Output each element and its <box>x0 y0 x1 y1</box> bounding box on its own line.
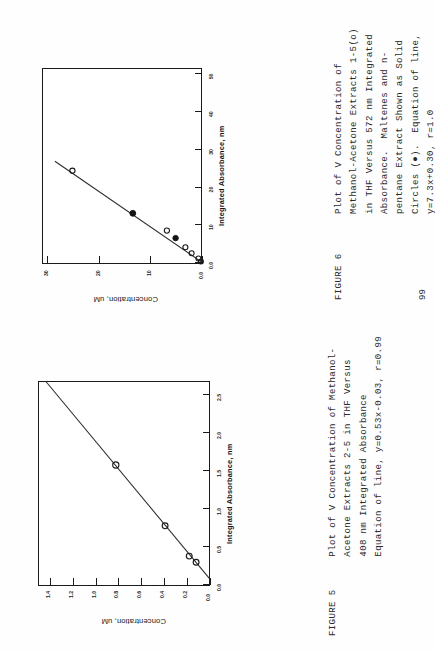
figure-5-xticklabel: 1.0 <box>216 508 222 515</box>
figure-6-xticklabel: 40 <box>208 111 214 117</box>
figure-5-plot-frame <box>38 381 210 586</box>
figure-5-yticklabel: 1.4 <box>45 591 51 598</box>
figure-6-xticklabel: 30 <box>208 149 214 155</box>
xtick <box>195 111 202 112</box>
ytick <box>118 579 119 586</box>
figure-6-yticklabel: 10 <box>146 270 152 276</box>
ytick <box>47 257 48 264</box>
figure-5-xticklabel: 2.0 <box>216 432 222 439</box>
ytick <box>150 257 151 264</box>
figure-6-plot-frame <box>42 68 202 264</box>
figure-6-tag: FIGURE 6 <box>331 214 346 300</box>
figure-5-yticklabel: 0.2 <box>182 591 188 598</box>
figure-5-yticklabel: 0.6 <box>136 591 142 598</box>
xtick <box>195 74 202 75</box>
ytick <box>164 579 165 586</box>
figure-5-xticklabel: 0.0 <box>216 584 222 591</box>
page-number: 99 <box>418 289 428 300</box>
ytick <box>50 579 51 586</box>
figure-6-y-axis-title: Concentration, uM <box>93 295 158 304</box>
figure-6-caption-text: Plot of V Concentration of Methanol-Acet… <box>331 28 439 214</box>
figure-5-y-axis-title: Concentration, uM <box>101 617 166 626</box>
xtick <box>195 224 202 225</box>
figure-6-fit-line <box>55 161 203 263</box>
xtick <box>195 262 202 263</box>
figure-5-tag: FIGURE 5 <box>325 557 340 636</box>
figure-5-x-axis-title: Integrated Absorbance, nm <box>225 444 234 544</box>
figure-6-chart: 0.0 10 20 30 40 50 0.0 10 20 30 Integrat… <box>28 48 250 300</box>
figure-5-caption: FIGURE 5 Plot of V Concentration of Meth… <box>294 336 417 636</box>
figure-5-caption-text: Plot of V Concentration of Methanol- Ace… <box>325 336 387 557</box>
figure-6-xticklabel: 50 <box>208 74 214 80</box>
ytick <box>210 579 211 586</box>
figure-6-x-axis-title: Integrated Absorbance, nm <box>217 126 226 226</box>
figure-6-caption: FIGURE 6 Plot of V Concentration of Meth… <box>300 10 440 300</box>
figure-5-xticklabel: 1.5 <box>216 470 222 477</box>
xtick <box>203 546 210 547</box>
figure-5-yticklabel: 1.0 <box>91 591 97 598</box>
ytick <box>187 579 188 586</box>
figure-5-yticklabel: 0.4 <box>159 591 165 598</box>
figure-5-xticklabel: 0.5 <box>216 546 222 553</box>
figure-5-yticklabel: 0.0 <box>205 594 211 601</box>
ytick <box>99 257 100 264</box>
xtick <box>195 149 202 150</box>
figure-6-xticklabel: 20 <box>208 187 214 193</box>
figure-6-xticklabel: 0.0 <box>208 262 214 269</box>
ytick <box>202 257 203 264</box>
figure-5-yticklabel: 0.8 <box>113 591 119 598</box>
figure-6-yticklabel: 0.0 <box>198 272 204 279</box>
ytick <box>96 579 97 586</box>
figure-5-chart: 0.0 0.5 1.0 1.5 2.0 2.5 0.0 0.2 0.4 0.6 … <box>22 378 252 630</box>
figure-5-xticklabel: 2.5 <box>216 394 222 401</box>
figure-5-yticklabel: 1.2 <box>68 591 74 598</box>
xtick <box>195 187 202 188</box>
figure-6-series <box>43 67 203 263</box>
figure-6-yticklabel: 30 <box>43 270 49 276</box>
ytick <box>141 579 142 586</box>
xtick <box>203 470 210 471</box>
figure-6-yticklabel: 20 <box>95 270 101 276</box>
xtick <box>203 432 210 433</box>
figure-5-series <box>39 380 211 585</box>
xtick <box>203 394 210 395</box>
figure-5-fit-line <box>46 382 211 581</box>
xtick <box>203 584 210 585</box>
figure-6-xticklabel: 10 <box>208 224 214 230</box>
xtick <box>203 508 210 509</box>
ytick <box>73 579 74 586</box>
